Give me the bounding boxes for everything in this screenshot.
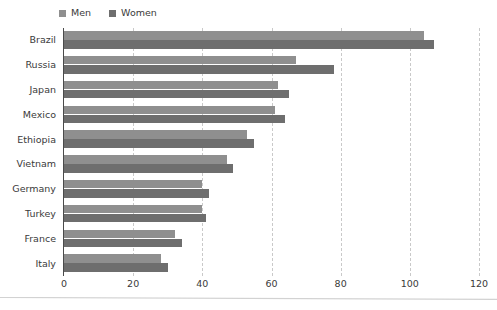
bar-men-brazil[interactable] — [64, 31, 424, 40]
bar-women-france[interactable] — [64, 239, 182, 248]
bar-women-brazil[interactable] — [64, 40, 434, 49]
bar-row — [64, 127, 479, 152]
bar-men-france[interactable] — [64, 230, 175, 239]
bar-men-turkey[interactable] — [64, 205, 202, 214]
plot-area — [64, 28, 479, 276]
bar-men-japan[interactable] — [64, 81, 278, 90]
bar-row — [64, 226, 479, 251]
bar-rows — [64, 28, 479, 276]
chart-legend: MenWomen — [0, 4, 497, 22]
x-tick-label: 100 — [401, 278, 419, 290]
bar-women-italy[interactable] — [64, 263, 168, 272]
category-label-germany: Germany — [12, 184, 56, 194]
bar-men-germany[interactable] — [64, 180, 202, 189]
bar-women-turkey[interactable] — [64, 214, 206, 223]
category-label-turkey: Turkey — [25, 209, 56, 219]
plot-wrapper: BrazilRussiaJapanMexicoEthiopiaVietnamGe… — [0, 28, 497, 276]
bar-men-russia[interactable] — [64, 56, 296, 65]
bar-women-russia[interactable] — [64, 65, 334, 74]
legend-swatch-icon — [109, 10, 116, 17]
category-label-mexico: Mexico — [23, 110, 56, 120]
category-axis-labels: BrazilRussiaJapanMexicoEthiopiaVietnamGe… — [0, 28, 60, 276]
x-tick-label: 0 — [61, 278, 67, 290]
bar-row — [64, 251, 479, 276]
bar-row — [64, 177, 479, 202]
bar-women-mexico[interactable] — [64, 115, 285, 124]
bar-row — [64, 202, 479, 227]
bar-women-japan[interactable] — [64, 90, 289, 99]
x-tick-label: 80 — [335, 278, 347, 290]
bar-row — [64, 78, 479, 103]
legend-swatch-icon — [59, 10, 66, 17]
category-label-italy: Italy — [35, 259, 56, 269]
bar-row — [64, 152, 479, 177]
gridline — [479, 28, 481, 276]
bar-men-italy[interactable] — [64, 254, 161, 263]
bar-men-ethiopia[interactable] — [64, 130, 247, 139]
bar-women-germany[interactable] — [64, 189, 209, 198]
legend-label: Women — [121, 8, 157, 18]
bar-men-vietnam[interactable] — [64, 155, 227, 164]
category-label-russia: Russia — [25, 60, 56, 70]
legend-label: Men — [71, 8, 91, 18]
bar-row — [64, 28, 479, 53]
bar-chart: MenWomen BrazilRussiaJapanMexicoEthiopia… — [0, 0, 497, 310]
legend-item-women[interactable]: Women — [109, 8, 157, 18]
x-tick-label: 120 — [470, 278, 488, 290]
bar-row — [64, 53, 479, 78]
category-label-brazil: Brazil — [29, 35, 56, 45]
x-tick-label: 20 — [127, 278, 139, 290]
bottom-divider — [0, 297, 497, 300]
category-label-ethiopia: Ethiopia — [17, 135, 56, 145]
legend-item-men[interactable]: Men — [59, 8, 91, 18]
category-label-france: France — [24, 234, 56, 244]
bar-women-ethiopia[interactable] — [64, 139, 254, 148]
value-axis-tick-labels: 020406080100120 — [0, 278, 497, 294]
bar-row — [64, 102, 479, 127]
x-tick-label: 40 — [196, 278, 208, 290]
category-label-vietnam: Vietnam — [16, 159, 56, 169]
bar-women-vietnam[interactable] — [64, 164, 233, 173]
category-label-japan: Japan — [30, 85, 57, 95]
x-tick-label: 60 — [265, 278, 277, 290]
bar-men-mexico[interactable] — [64, 106, 275, 115]
